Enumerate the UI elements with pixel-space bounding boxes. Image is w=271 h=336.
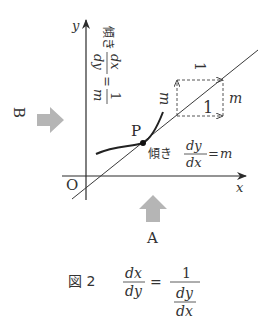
rotated-value-numerator: 1 — [108, 92, 123, 100]
x-axis-label: x — [236, 180, 244, 195]
caption-equals: = — [150, 274, 162, 290]
caption-rhs-numerator: 1 — [182, 265, 191, 281]
point-p — [140, 140, 146, 146]
caption-lhs-denominator: dy — [125, 283, 143, 299]
arrow-a-label: A — [146, 229, 158, 247]
triangle-rotated-rise-label: m — [157, 92, 173, 105]
caption-lhs-numerator: dx — [125, 265, 142, 281]
rotated-prefix: 傾き — [101, 26, 115, 50]
rotated-denominator: dy — [91, 54, 106, 70]
point-p-label: P — [131, 122, 141, 140]
slope-value: m — [220, 146, 232, 161]
arrow-b-label: B — [10, 107, 28, 118]
rotated-value-denominator: m — [91, 89, 106, 101]
arrow-b-icon — [37, 107, 64, 133]
origin-label: O — [66, 176, 78, 194]
slope-label-rotated: 傾き dx dy = 1 m — [91, 26, 123, 104]
slope-equals: = — [208, 146, 219, 161]
arrow-a-icon — [139, 195, 167, 222]
figure-caption: 図 2 dx dy = 1 dy dx — [68, 265, 200, 319]
rotated-numerator: dx — [108, 54, 123, 70]
slope-denominator: dx — [186, 155, 202, 170]
slope-prefix: 傾き — [148, 147, 172, 161]
caption-label: 図 2 — [68, 273, 95, 289]
caption-rhs-inner-denominator: dx — [176, 303, 193, 319]
slope-label-horizontal: 傾き dy dx = m — [148, 138, 232, 170]
triangle-run-label: 1 — [203, 98, 213, 117]
triangle-rotated-run-label: 1 — [192, 62, 208, 71]
y-axis-label: y — [71, 18, 80, 33]
slope-numerator: dy — [186, 138, 202, 153]
tangent-line — [72, 50, 258, 199]
figure-canvas: x y O P 1 m 1 m 傾き dy dx = m 傾き dx dy = … — [0, 0, 271, 336]
triangle-rise-label: m — [229, 90, 242, 106]
rotated-equals: = — [100, 76, 115, 87]
caption-rhs-inner-numerator: dy — [176, 285, 194, 301]
